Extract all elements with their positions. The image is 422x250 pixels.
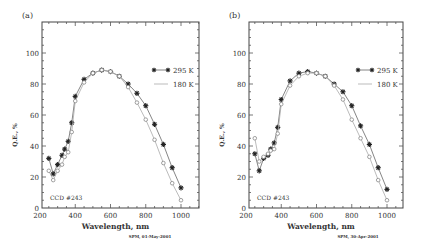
legend-entry: 295 K [152,67,195,75]
chart-panel-b: 2004006008001000020406080100(b)Wavelengt… [218,11,403,239]
circle-marker [288,84,292,88]
series-180-k [47,68,183,202]
circle-marker [324,74,328,78]
circle-marker [262,155,266,159]
y-axis-label: Q.E., % [218,123,226,147]
y-tick-label: 20 [30,174,39,182]
circle-marker [82,81,86,85]
y-tick-label: 0 [35,205,39,213]
circle-marker [376,178,380,182]
y-tick-label: 80 [237,81,246,89]
footer-stamp: SPM, 30-Apr-2001 [337,234,378,239]
star-marker [152,122,157,127]
series-295-k [252,69,389,192]
legend-entry: 295 K [356,67,399,75]
circle-marker [91,71,95,75]
ccd-annotation: CCD #243 [257,194,290,201]
circle-marker [162,161,166,165]
circle-marker [269,149,273,153]
star-marker [161,142,166,147]
x-tick-label: 600 [104,212,117,220]
legend-label: 180 K [173,81,195,89]
circle-marker [100,68,104,72]
x-tick-label: 1000 [378,212,396,220]
x-axis-label: Wavelength, nm [81,222,150,231]
circle-marker [63,155,67,159]
series-180-k [253,71,389,202]
panel-label: (a) [22,11,33,20]
circle-marker [385,198,389,202]
circle-marker [359,136,363,140]
circle-marker [135,101,139,105]
star-marker [257,168,262,173]
x-tick-label: 200 [33,212,46,220]
y-tick-label: 40 [237,143,246,151]
y-tick-label: 20 [237,174,246,182]
circle-marker [73,99,77,103]
y-tick-label: 60 [237,112,246,120]
legend-entry: 180 K [358,81,399,89]
circle-marker [297,74,301,78]
circle-marker [306,71,310,75]
x-axis-label: Wavelength, nm [286,222,355,231]
circle-marker [118,74,122,78]
circle-marker [47,169,51,173]
legend-label: 295 K [377,67,399,75]
ccd-annotation: CCD #243 [50,194,83,201]
star-marker [178,185,183,190]
y-axis-label: Q.E., % [11,123,19,147]
star-marker [287,78,292,83]
circle-marker [144,118,148,122]
star-marker [275,125,280,130]
circle-marker [66,150,70,154]
circle-marker [153,138,157,142]
y-tick-label: 0 [242,205,246,213]
x-tick-label: 400 [69,212,82,220]
star-marker [358,123,363,128]
circle-marker [60,163,64,167]
star-marker [252,151,257,156]
x-tick-label: 600 [310,212,323,220]
panel-label: (b) [229,11,240,20]
circle-marker [332,84,336,88]
y-tick-label: 100 [26,50,39,58]
circle-marker [315,71,319,75]
plot-frame [42,22,199,208]
star-marker [384,187,389,192]
series-295-k [46,67,183,190]
footer-stamp: SPM, 01-May-2001 [129,234,172,239]
x-tick-label: 800 [139,212,152,220]
circle-marker [70,130,74,134]
star-marker [349,103,354,108]
x-tick-label: 800 [345,212,358,220]
star-marker [69,120,74,125]
circle-marker [368,155,372,159]
star-marker [367,142,372,147]
circle-marker [179,198,183,202]
figure: 2004006008001000020406080100(a)Wavelengt… [0,0,422,250]
x-tick-label: 400 [275,212,288,220]
legend-label: 180 K [377,81,399,89]
star-marker [340,89,345,94]
y-tick-label: 60 [30,112,39,120]
circle-marker [272,147,276,151]
x-tick-label: 200 [239,212,252,220]
circle-marker [276,132,280,136]
star-marker [55,162,60,167]
star-marker [170,165,175,170]
circle-marker [56,169,60,173]
star-marker [46,156,51,161]
circle-marker [51,178,55,182]
y-tick-label: 40 [30,143,39,151]
y-tick-label: 80 [30,81,39,89]
circle-marker [109,70,113,74]
qe-chart-figure: 2004006008001000020406080100(a)Wavelengt… [0,0,422,250]
circle-marker [350,118,354,122]
legend-label: 295 K [173,67,195,75]
circle-marker [170,181,174,185]
circle-marker [279,102,283,106]
x-tick-label: 1000 [172,212,190,220]
circle-marker [253,136,257,140]
star-marker [376,165,381,170]
y-tick-label: 100 [233,50,246,58]
